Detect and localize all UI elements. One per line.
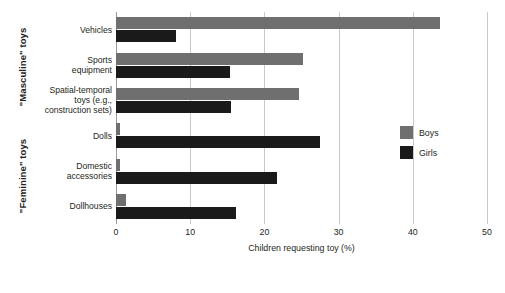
bar-boys-0: [116, 17, 440, 29]
bar-girls-4: [116, 172, 277, 184]
x-tick-label-0: 0: [96, 227, 136, 237]
category-label-0: Vehicles: [24, 25, 112, 35]
category-label-3: Dolls: [24, 131, 112, 141]
gridline-20: [264, 12, 265, 224]
bar-boys-1: [116, 53, 303, 65]
gridline-0: [116, 12, 117, 224]
legend: Boys Girls: [400, 126, 470, 166]
legend-item-girls: Girls: [400, 146, 470, 159]
category-label-5: Dollhouses: [24, 201, 112, 211]
legend-swatch-girls-icon: [400, 146, 413, 159]
x-axis: 01020304050: [116, 224, 487, 244]
category-label-1: Sports equipment: [24, 55, 112, 75]
bar-boys-2: [116, 88, 299, 100]
x-tick-label-40: 40: [393, 227, 433, 237]
bar-girls-3: [116, 136, 320, 148]
legend-swatch-boys-icon: [400, 126, 413, 139]
gridline-40: [413, 12, 414, 224]
bar-girls-1: [116, 66, 230, 78]
gridline-30: [339, 12, 340, 224]
x-tick-label-30: 30: [319, 227, 359, 237]
bar-boys-5: [116, 194, 126, 206]
x-axis-title: Children requesting toy (%): [116, 243, 487, 253]
x-tick-label-50: 50: [467, 227, 505, 237]
legend-item-boys: Boys: [400, 126, 470, 139]
plot-area: [116, 12, 487, 224]
bar-boys-3: [116, 123, 120, 135]
legend-label-boys: Boys: [419, 128, 439, 138]
gridline-50: [487, 12, 488, 224]
x-tick-label-10: 10: [170, 227, 210, 237]
category-label-4: Domestic accessories: [24, 161, 112, 181]
x-tick-label-20: 20: [244, 227, 284, 237]
bar-boys-4: [116, 159, 120, 171]
gridline-10: [190, 12, 191, 224]
bar-girls-2: [116, 101, 231, 113]
category-axis: VehiclesSports equipmentSpatial-temporal…: [24, 12, 112, 224]
bar-girls-5: [116, 207, 236, 219]
category-label-2: Spatial-temporal toys (e.g., constructio…: [24, 85, 112, 116]
bar-girls-0: [116, 30, 176, 42]
bar-chart-figure: "Masculine" toys "Feminine" toys Vehicle…: [0, 0, 505, 293]
legend-label-girls: Girls: [419, 148, 437, 158]
